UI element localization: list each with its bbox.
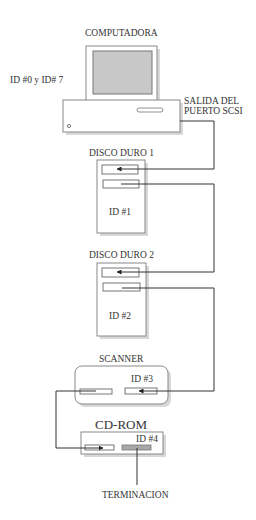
hard-disk-1 (97, 160, 148, 236)
monitor-screen (93, 51, 152, 94)
disk2-name: DISCO DURO 2 (89, 250, 154, 261)
floppy-slot (137, 108, 163, 112)
computer (63, 46, 183, 135)
cdrom-name: CD-ROM (95, 418, 147, 432)
disk1-id: ID #1 (109, 207, 131, 218)
scsi-port-label-line2: PUERTO SCSI (184, 106, 243, 117)
scsi-port-out (103, 283, 140, 291)
hard-disk-2 (97, 263, 149, 339)
power-led (67, 124, 70, 127)
scanner (75, 366, 171, 407)
disk1-name: DISCO DURO 1 (89, 148, 154, 159)
scanner-name: SCANNER (99, 354, 143, 365)
computer-base (63, 100, 180, 132)
computer-title: COMPUTADORA (85, 28, 158, 39)
disk2-id: ID #2 (109, 311, 131, 322)
computer-ids: ID #0 y ID# 7 (10, 75, 63, 86)
terminator-label: TERMINACION (102, 490, 169, 501)
cdrom-id: ID #4 (136, 434, 158, 445)
scanner-id: ID #3 (131, 374, 153, 385)
